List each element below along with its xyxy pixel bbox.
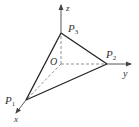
z-axis-label: z bbox=[65, 3, 70, 13]
origin-label: O bbox=[50, 56, 57, 67]
point-p2-label: P2 bbox=[105, 48, 117, 62]
dashed-edge-o-p1 bbox=[26, 64, 61, 100]
point-p3-label: P3 bbox=[67, 22, 79, 36]
edge-p1-p2 bbox=[26, 64, 107, 100]
edge-p2-p3 bbox=[61, 33, 107, 64]
y-axis-label: y bbox=[122, 68, 128, 79]
point-p1-label: P1 bbox=[4, 94, 16, 108]
x-axis bbox=[16, 100, 26, 113]
tetrahedron-diagram: z y x O P3 P2 P1 bbox=[0, 0, 139, 127]
x-axis-label: x bbox=[13, 114, 18, 124]
